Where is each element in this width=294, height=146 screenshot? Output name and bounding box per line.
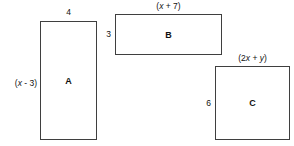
rect-b-top-dimension: (x + 7) [115, 2, 222, 11]
rect-b-left-dimension: 3 [96, 30, 111, 39]
rect-c-top-dimension: (2x + y) [215, 54, 290, 63]
rect-c-top-dimension-text: (2x + y) [238, 53, 267, 63]
rect-a-left-dimension: (x - 3) [0, 79, 37, 88]
rectangle-c: C [215, 66, 290, 140]
rect-b-top-dimension-text: (x + 7) [156, 1, 180, 11]
geometry-figure: 4 (x - 3) A (x + 7) 3 B (2x + y) 6 C [0, 0, 294, 146]
rectangle-b: B [115, 14, 222, 55]
rect-a-left-dimension-text: (x - 3) [15, 78, 37, 88]
rect-a-top-dimension: 4 [40, 8, 97, 17]
rect-a-label: A [41, 76, 96, 85]
rect-b-label: B [116, 30, 221, 39]
rect-c-label: C [216, 99, 289, 108]
rectangle-a: A [40, 21, 97, 140]
rect-c-left-dimension: 6 [196, 99, 211, 108]
